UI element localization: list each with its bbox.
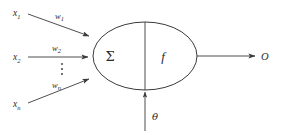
vertical-ellipsis bbox=[61, 63, 63, 75]
input-label-x2: x2 bbox=[12, 52, 21, 64]
input-label-x1: x1 bbox=[12, 8, 20, 20]
activation-symbol: f bbox=[161, 49, 167, 64]
input-label-xn: xn bbox=[12, 99, 20, 111]
neuron-diagram: x1 x2 xn w1 w2 wn Σ f θ O bbox=[0, 0, 281, 135]
summation-symbol: Σ bbox=[105, 49, 114, 64]
output-label: O bbox=[261, 51, 269, 62]
diagram-canvas: x1 x2 xn w1 w2 wn Σ f θ O bbox=[0, 0, 281, 135]
weight-label-w1: w1 bbox=[55, 11, 64, 22]
threshold-label: θ bbox=[152, 111, 158, 122]
weight-label-wn: wn bbox=[52, 80, 61, 91]
weight-label-w2: w2 bbox=[52, 43, 62, 54]
